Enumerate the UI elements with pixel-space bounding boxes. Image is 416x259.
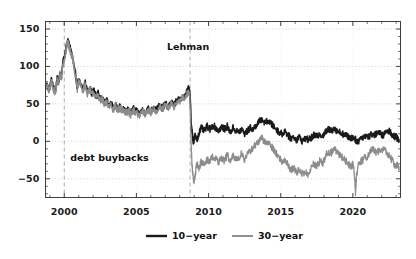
x-axis-tick-label: 2000 (51, 206, 78, 217)
x-axis-tick-label: 2010 (195, 206, 222, 217)
chart-figure: −5005010015020002005201020152020Lehmande… (0, 0, 416, 259)
x-axis-tick-label: 2005 (123, 206, 150, 217)
annotation-lehman: Lehman (167, 41, 209, 52)
x-axis-tick-label: 2020 (339, 206, 366, 217)
x-axis-tick-label: 2015 (267, 206, 294, 217)
y-axis-tick-label: 0 (33, 135, 40, 146)
legend-label-10-year: 10−year (172, 230, 217, 241)
chart-canvas (0, 0, 416, 259)
legend-label-30-year: 30−year (258, 230, 303, 241)
annotation-debt-buybacks: debt buybacks (70, 152, 148, 163)
y-axis-tick-label: 50 (26, 98, 39, 109)
y-axis-tick-label: 100 (19, 60, 39, 71)
plot-background (46, 22, 401, 198)
y-axis-tick-label: 150 (19, 23, 39, 34)
y-axis-tick-label: −50 (18, 173, 39, 184)
